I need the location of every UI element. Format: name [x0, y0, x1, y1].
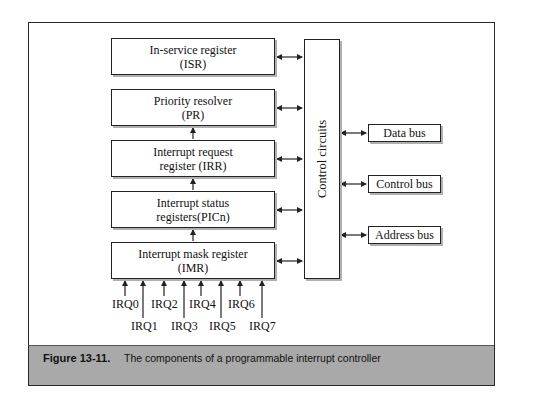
pr-box: Priority resolver (PR) — [111, 89, 275, 126]
irq2-label: IRQ2 — [151, 297, 178, 312]
figure-number: Figure 13-11. — [43, 352, 110, 364]
control-bus-box: Control bus — [368, 175, 441, 193]
irq1-label: IRQ1 — [131, 319, 158, 334]
connector-arrows — [0, 0, 552, 397]
data-bus-label: Data bus — [383, 126, 425, 140]
data-bus-box: Data bus — [368, 124, 441, 142]
irr-box: Interrupt request register (IRR) — [111, 140, 275, 177]
control-bus-label: Control bus — [376, 177, 432, 191]
picn-line1: Interrupt status — [157, 196, 229, 210]
address-bus-box: Address bus — [368, 226, 441, 244]
irr-line1: Interrupt request — [153, 145, 233, 159]
imr-line2: (IMR) — [178, 261, 209, 275]
isr-line2: (ISR) — [180, 57, 207, 71]
pr-line1: Priority resolver — [154, 94, 232, 108]
irq6-label: IRQ6 — [228, 297, 255, 312]
address-bus-label: Address bus — [375, 228, 434, 242]
irq0-label: IRQ0 — [112, 297, 139, 312]
figure-caption: Figure 13-11. The components of a progra… — [28, 345, 495, 386]
pr-line2: (PR) — [182, 108, 205, 122]
control-circuits-box: Control circuits — [304, 39, 340, 279]
imr-box: Interrupt mask register (IMR) — [111, 242, 275, 279]
irq7-label: IRQ7 — [249, 319, 276, 334]
isr-line1: In-service register — [150, 43, 237, 57]
irq5-label: IRQ5 — [209, 319, 236, 334]
isr-box: In-service register (ISR) — [111, 38, 275, 75]
control-circuits-label: Control circuits — [315, 120, 329, 198]
irq3-label: IRQ3 — [171, 319, 198, 334]
figure-caption-text: The components of a programmable interru… — [124, 352, 381, 364]
picn-box: Interrupt status registers(PICn) — [111, 191, 275, 228]
imr-line1: Interrupt mask register — [138, 247, 247, 261]
irr-line2: register (IRR) — [160, 159, 227, 173]
irq4-label: IRQ4 — [189, 297, 216, 312]
picn-line2: registers(PICn) — [156, 210, 229, 224]
